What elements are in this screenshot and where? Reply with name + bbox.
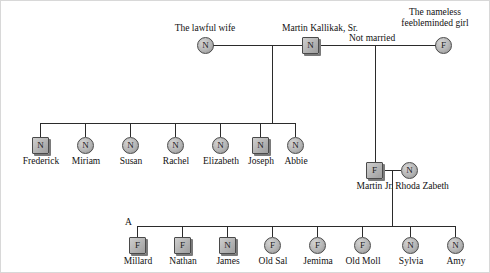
union-line-illegitimate xyxy=(319,45,436,46)
sibling-stem xyxy=(362,226,363,237)
sibling-stem xyxy=(220,123,221,137)
label-abbie: Abbie xyxy=(265,156,327,167)
sibling-stem xyxy=(130,123,131,137)
symbol-circle-female: N xyxy=(287,137,304,154)
symbol-square-male: F xyxy=(174,237,191,254)
symbol-square-male: N xyxy=(302,37,319,54)
label-branch-marker-a: A xyxy=(125,217,132,227)
sibling-stem xyxy=(295,123,296,137)
sibling-bar-gen3 xyxy=(137,226,455,227)
symbol-circle-female: N xyxy=(447,237,464,254)
label-rhoda-zabeth: Rhoda Zabeth xyxy=(377,181,467,192)
symbol-circle-female: F xyxy=(354,237,371,254)
symbol-circle-female: N xyxy=(402,237,419,254)
union-line-lawful xyxy=(213,45,303,46)
symbol-circle-female: N xyxy=(197,37,214,54)
sibling-stem xyxy=(182,226,183,237)
symbol-square-male: N xyxy=(32,137,49,154)
symbol-square-male: N xyxy=(219,237,236,254)
symbol-circle-female: F xyxy=(435,37,452,54)
label-not-married: Not married xyxy=(349,33,395,43)
descender-illegitimate-union xyxy=(375,45,376,162)
symbol-circle-female: F xyxy=(264,237,281,254)
symbol-circle-female: N xyxy=(122,137,139,154)
label-lawful-wife: The lawful wife xyxy=(155,23,255,34)
descender-lawful-union xyxy=(272,45,273,123)
sibling-stem xyxy=(137,226,138,237)
symbol-square-male: F xyxy=(366,162,383,179)
symbol-circle-female: N xyxy=(401,162,418,179)
label-amy: Amy xyxy=(425,256,487,267)
sibling-stem xyxy=(317,226,318,237)
sibling-stem xyxy=(455,226,456,237)
sibling-stem xyxy=(85,123,86,137)
symbol-circle-female: N xyxy=(77,137,94,154)
pedigree-chart: The lawful wife Martin Kallikak, Sr. The… xyxy=(0,0,490,273)
symbol-square-male: F xyxy=(129,237,146,254)
sibling-stem xyxy=(272,226,273,237)
symbol-circle-female: N xyxy=(212,137,229,154)
symbol-square-male: N xyxy=(252,137,269,154)
sibling-bar-lawful xyxy=(40,123,295,124)
sibling-stem xyxy=(40,123,41,137)
descender-martin-jr-union xyxy=(392,170,393,226)
sibling-stem xyxy=(227,226,228,237)
sibling-stem xyxy=(410,226,411,237)
symbol-circle-female: F xyxy=(309,237,326,254)
label-nameless-girl-line1: The nameless xyxy=(383,7,487,18)
label-nameless-girl-line2: feebleminded girl xyxy=(383,18,487,29)
sibling-stem xyxy=(260,123,261,137)
sibling-stem xyxy=(175,123,176,137)
symbol-circle-female: N xyxy=(167,137,184,154)
